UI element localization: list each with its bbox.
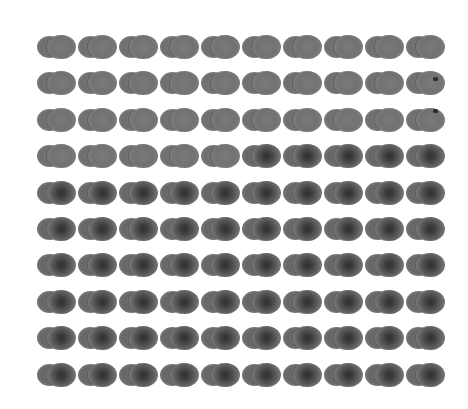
- front-circle-icon: [334, 181, 363, 205]
- grid-cell-r1-c10: [406, 35, 446, 59]
- front-circle-icon: [252, 71, 281, 95]
- grid-cell-r4-c2: [78, 144, 118, 168]
- grid-cell-r10-c8: [324, 363, 364, 387]
- grid-cell-r5-c3: [119, 181, 159, 205]
- grid-cell-r7-c10: [406, 253, 446, 277]
- front-circle-icon: [416, 108, 445, 132]
- grid-cell-r7-c5: [201, 253, 241, 277]
- grid-cell-r10-c6: [242, 363, 282, 387]
- grid-cell-r10-c10: [406, 363, 446, 387]
- grid-cell-r2-c6: [242, 71, 282, 95]
- front-circle-icon: [334, 290, 363, 314]
- front-circle-icon: [375, 326, 404, 350]
- front-circle-icon: [88, 363, 117, 387]
- grid-cell-r9-c5: [201, 326, 241, 350]
- grid-cell-r5-c10: [406, 181, 446, 205]
- grid-cell-r2-c9: [365, 71, 405, 95]
- grid-cell-r2-c2: [78, 71, 118, 95]
- grid-cell-r6-c5: [201, 217, 241, 241]
- front-circle-icon: [170, 326, 199, 350]
- grid-cell-r3-c7: [283, 108, 323, 132]
- front-circle-icon: [88, 326, 117, 350]
- grid-cell-r3-c2: [78, 108, 118, 132]
- front-circle-icon: [211, 253, 240, 277]
- grid-cell-r8-c10: [406, 290, 446, 314]
- front-circle-icon: [252, 217, 281, 241]
- circle-grid-canvas: [0, 0, 468, 409]
- front-circle-icon: [416, 144, 445, 168]
- grid-cell-r2-c3: [119, 71, 159, 95]
- front-circle-icon: [375, 290, 404, 314]
- front-circle-icon: [211, 217, 240, 241]
- grid-cell-r9-c3: [119, 326, 159, 350]
- front-circle-icon: [170, 108, 199, 132]
- front-circle-icon: [334, 71, 363, 95]
- front-circle-icon: [252, 144, 281, 168]
- grid-cell-r1-c3: [119, 35, 159, 59]
- grid-cell-r9-c1: [37, 326, 77, 350]
- grid-cell-r6-c9: [365, 217, 405, 241]
- grid-cell-r2-c5: [201, 71, 241, 95]
- grid-cell-r6-c6: [242, 217, 282, 241]
- front-circle-icon: [211, 35, 240, 59]
- front-circle-icon: [211, 363, 240, 387]
- grid-cell-r1-c6: [242, 35, 282, 59]
- grid-cell-r8-c5: [201, 290, 241, 314]
- front-circle-icon: [47, 181, 76, 205]
- front-circle-icon: [334, 363, 363, 387]
- grid-cell-r1-c5: [201, 35, 241, 59]
- front-circle-icon: [88, 71, 117, 95]
- grid-cell-r8-c7: [283, 290, 323, 314]
- grid-cell-r4-c1: [37, 144, 77, 168]
- front-circle-icon: [129, 363, 158, 387]
- front-circle-icon: [375, 108, 404, 132]
- grid-cell-r7-c4: [160, 253, 200, 277]
- grid-cell-r4-c10: [406, 144, 446, 168]
- front-circle-icon: [334, 144, 363, 168]
- front-circle-icon: [416, 253, 445, 277]
- front-circle-icon: [129, 181, 158, 205]
- grid-cell-r5-c6: [242, 181, 282, 205]
- front-circle-icon: [88, 217, 117, 241]
- grid-cell-r3-c10: [406, 108, 446, 132]
- front-circle-icon: [211, 326, 240, 350]
- front-circle-icon: [293, 326, 322, 350]
- front-circle-icon: [375, 71, 404, 95]
- front-circle-icon: [252, 290, 281, 314]
- grid-cell-r9-c4: [160, 326, 200, 350]
- grid-cell-r6-c2: [78, 217, 118, 241]
- front-circle-icon: [170, 363, 199, 387]
- grid-cell-r5-c9: [365, 181, 405, 205]
- grid-cell-r4-c3: [119, 144, 159, 168]
- grid-cell-r10-c9: [365, 363, 405, 387]
- front-circle-icon: [211, 71, 240, 95]
- front-circle-icon: [334, 217, 363, 241]
- front-circle-icon: [47, 326, 76, 350]
- dark-spot-icon: [433, 77, 438, 81]
- grid-cell-r5-c2: [78, 181, 118, 205]
- grid-cell-r6-c4: [160, 217, 200, 241]
- front-circle-icon: [334, 108, 363, 132]
- grid-cell-r1-c9: [365, 35, 405, 59]
- grid-cell-r8-c1: [37, 290, 77, 314]
- grid-cell-r7-c7: [283, 253, 323, 277]
- front-circle-icon: [170, 290, 199, 314]
- grid-cell-r10-c2: [78, 363, 118, 387]
- front-circle-icon: [170, 253, 199, 277]
- front-circle-icon: [88, 290, 117, 314]
- grid-cell-r10-c1: [37, 363, 77, 387]
- grid-cell-r4-c8: [324, 144, 364, 168]
- front-circle-icon: [293, 35, 322, 59]
- front-circle-icon: [88, 35, 117, 59]
- grid-cell-r7-c2: [78, 253, 118, 277]
- front-circle-icon: [252, 326, 281, 350]
- grid-cell-r7-c8: [324, 253, 364, 277]
- grid-cell-r10-c4: [160, 363, 200, 387]
- grid-cell-r5-c4: [160, 181, 200, 205]
- front-circle-icon: [375, 144, 404, 168]
- front-circle-icon: [129, 71, 158, 95]
- front-circle-icon: [129, 253, 158, 277]
- grid-cell-r4-c9: [365, 144, 405, 168]
- front-circle-icon: [129, 35, 158, 59]
- front-circle-icon: [293, 290, 322, 314]
